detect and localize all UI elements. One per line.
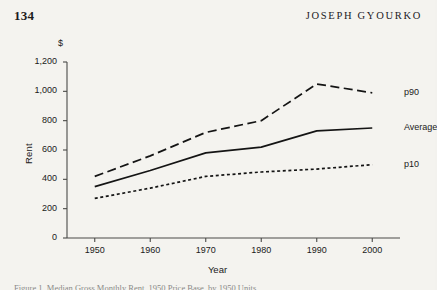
- series-label-Average: Average: [404, 122, 437, 132]
- x-tick-label: 1960: [128, 245, 172, 255]
- series-label-p90: p90: [404, 87, 419, 97]
- x-tick-label: 1950: [73, 245, 117, 255]
- line-chart-plot: [0, 30, 435, 280]
- x-tick-label: 1990: [295, 245, 339, 255]
- running-head-title: JOSEPH GYOURKO: [306, 10, 422, 21]
- y-tick-label: 600: [17, 144, 57, 154]
- y-tick-label: 1,200: [17, 56, 57, 66]
- running-header: 134 JOSEPH GYOURKO: [0, 8, 435, 26]
- page-number: 134: [14, 8, 34, 24]
- y-tick-label: 800: [17, 115, 57, 125]
- chart-series: [95, 84, 373, 198]
- y-tick-label: 400: [17, 173, 57, 183]
- series-label-p10: p10: [404, 159, 419, 169]
- figure-caption: Figure 1. Median Gross Monthly Rent, 195…: [14, 283, 421, 290]
- series-line-Average: [95, 128, 373, 187]
- x-tick-label: 1970: [184, 245, 228, 255]
- figure-chart: $ Rent Year 02004006008001,0001,200 1950…: [0, 30, 435, 280]
- x-tick-label: 1980: [239, 245, 283, 255]
- series-line-p10: [95, 165, 373, 199]
- y-tick-label: 0: [17, 232, 57, 242]
- y-tick-label: 200: [17, 203, 57, 213]
- y-tick-label: 1,000: [17, 85, 57, 95]
- x-tick-label: 2000: [350, 245, 394, 255]
